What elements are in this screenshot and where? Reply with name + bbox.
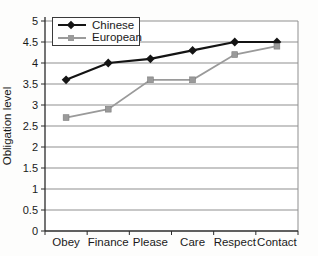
y-tick-label: 1.5 bbox=[23, 162, 38, 174]
y-tick-label: 4 bbox=[32, 57, 38, 69]
y-tick-label: 0 bbox=[32, 225, 38, 237]
data-marker-square bbox=[190, 77, 196, 83]
data-marker-square bbox=[63, 115, 69, 121]
data-marker-square bbox=[232, 52, 238, 58]
y-axis-title: Obligation level bbox=[1, 87, 13, 166]
y-tick-label: 2.5 bbox=[23, 120, 38, 132]
x-category-label: Finance bbox=[88, 236, 129, 248]
obligation-level-line-chart: 00.511.522.533.544.55ObeyFinancePleaseCa… bbox=[0, 0, 318, 256]
x-category-label: Contact bbox=[257, 236, 297, 248]
chinese-diamond-marker-icon bbox=[58, 21, 86, 29]
legend-label-chinese: Chinese bbox=[92, 20, 134, 32]
data-marker-square bbox=[105, 106, 111, 112]
y-tick-label: 4.5 bbox=[23, 36, 38, 48]
data-marker-square bbox=[148, 77, 154, 83]
x-category-label: Respect bbox=[214, 236, 257, 248]
y-tick-label: 1 bbox=[32, 183, 38, 195]
y-tick-label: 5 bbox=[32, 15, 38, 27]
x-category-label: Care bbox=[180, 236, 205, 248]
legend-label-european: European bbox=[92, 32, 142, 44]
x-category-label: Please bbox=[133, 236, 168, 248]
chart-canvas: 00.511.522.533.544.55ObeyFinancePleaseCa… bbox=[0, 0, 318, 256]
y-tick-label: 3 bbox=[32, 99, 38, 111]
european-square-marker-icon bbox=[58, 34, 86, 42]
chart-legend: Chinese European bbox=[52, 17, 140, 46]
y-tick-label: 2 bbox=[32, 141, 38, 153]
y-tick-label: 0.5 bbox=[23, 204, 38, 216]
y-tick-label: 3.5 bbox=[23, 78, 38, 90]
x-category-label: Obey bbox=[52, 236, 80, 248]
data-marker-square bbox=[274, 43, 280, 49]
legend-item-chinese: Chinese bbox=[58, 19, 137, 31]
legend-item-european: European bbox=[58, 32, 137, 44]
